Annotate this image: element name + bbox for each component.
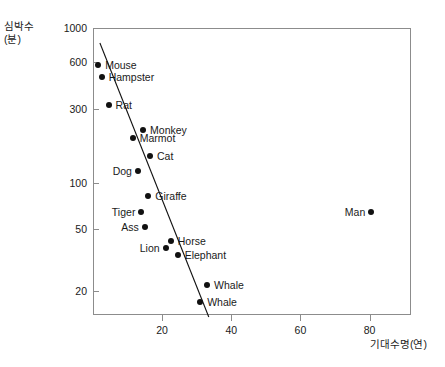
data-point — [106, 102, 112, 108]
data-point — [168, 238, 174, 244]
x-tick-mark — [370, 315, 371, 321]
data-point — [99, 74, 105, 80]
x-tick-label: 40 — [225, 324, 237, 336]
y-tick-label: 100 — [69, 177, 87, 189]
point-label: Lion — [140, 242, 160, 254]
y-tick-mark — [93, 229, 99, 230]
y-axis-title-line1: 심박수 — [4, 20, 34, 32]
point-label: Elephant — [185, 249, 226, 261]
scatter-chart: 심박수(분) 1000600300100502020406080 MouseHa… — [0, 0, 445, 367]
point-label: Dog — [113, 165, 132, 177]
point-label: Man — [345, 206, 365, 218]
x-tick-mark — [231, 315, 232, 321]
data-point — [135, 168, 141, 174]
y-tick-mark — [93, 109, 99, 110]
point-label: Giraffe — [155, 190, 186, 202]
point-label: Whale — [214, 279, 244, 291]
y-tick-mark — [93, 291, 99, 292]
x-tick-mark — [162, 315, 163, 321]
point-label: Mouse — [105, 59, 137, 71]
data-point — [130, 135, 136, 141]
y-tick-label: 600 — [69, 56, 87, 68]
point-label: Ass — [121, 221, 139, 233]
x-tick-label: 80 — [364, 324, 376, 336]
point-label: Rat — [116, 99, 132, 111]
data-point — [204, 282, 210, 288]
x-tick-mark — [300, 315, 301, 321]
data-point — [368, 209, 374, 215]
y-axis-title-line2: (분) — [4, 33, 21, 45]
data-point — [175, 252, 181, 258]
point-label: Hampster — [109, 71, 155, 83]
y-tick-label: 1000 — [64, 22, 87, 34]
point-label: Horse — [178, 235, 206, 247]
data-point — [142, 224, 148, 230]
data-point — [95, 62, 101, 68]
point-label: Tiger — [112, 206, 136, 218]
y-tick-label: 20 — [75, 285, 87, 297]
point-label: Marmot — [140, 132, 176, 144]
y-axis-title: 심박수(분) — [4, 20, 34, 45]
y-tick-label: 300 — [69, 103, 87, 115]
x-tick-label: 20 — [156, 324, 168, 336]
y-tick-mark — [93, 183, 99, 184]
x-tick-label: 60 — [295, 324, 307, 336]
x-axis-title: 기대수명(연) — [370, 338, 427, 351]
point-label: Whale — [207, 296, 237, 308]
data-point — [163, 245, 169, 251]
y-tick-label: 50 — [75, 223, 87, 235]
point-label: Cat — [157, 150, 173, 162]
y-tick-mark — [93, 28, 99, 29]
